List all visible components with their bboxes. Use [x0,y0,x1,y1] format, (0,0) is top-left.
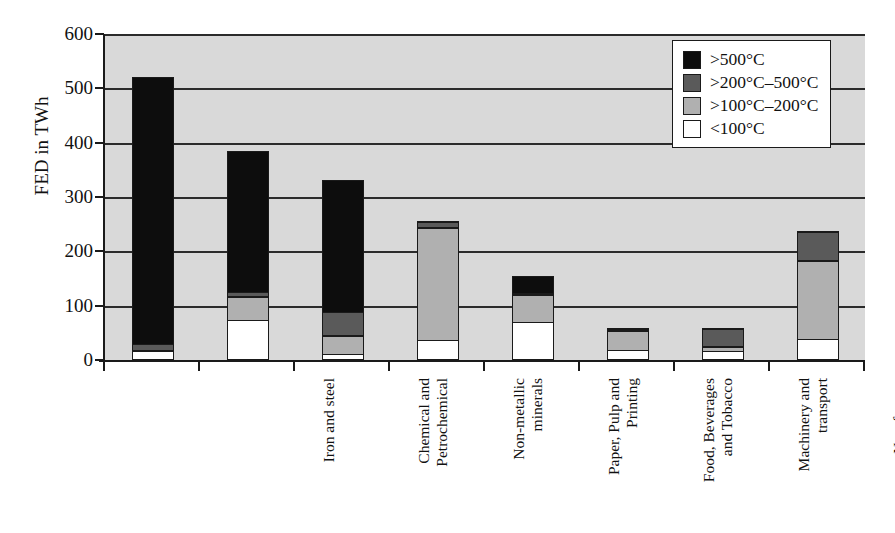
y-axis-tick-label: 200 [41,240,93,262]
bar-4 [417,221,459,360]
bar-8 [797,231,839,360]
bar-2 [227,151,269,360]
legend-item-label: >200°C–500°C [710,72,818,93]
bar-segment [133,344,173,351]
x-axis-label: Paper, Pulp and Printing [605,378,642,533]
y-axis-tick-label: 0 [41,349,93,371]
bar-segment [228,320,268,359]
bar-segment [513,322,553,359]
y-axis-tick-label: 100 [41,295,93,317]
bar-segment [323,181,363,312]
x-axis-label: Non-ferrous metals [890,378,895,533]
y-axis-tick-mark [95,196,104,198]
bar-segment [798,261,838,340]
bar-7 [702,328,744,360]
x-axis-tick-mark [863,360,865,371]
x-axis-tick-mark [768,360,770,371]
y-axis-tick-label: 600 [41,23,93,45]
bar-6 [607,328,649,360]
x-axis-tick-mark [198,360,200,371]
legend-item-label: >500°C [710,49,765,70]
bar-segment [513,295,553,323]
black-swatch-icon [683,51,701,69]
x-axis-label: Non-metallic minerals [510,378,547,533]
legend-item: >200°C–500°C [683,71,818,94]
y-axis-tick-mark [95,33,104,35]
x-axis-label: Food, Beverages and Tobacco [700,378,737,533]
white-swatch-icon [683,120,701,138]
bar-segment [513,277,553,293]
bar-segment [418,228,458,340]
bar-5 [512,276,554,360]
medium-gray-swatch-icon [683,97,701,115]
legend-item-label: >100°C–200°C [710,95,818,116]
legend-item: >100°C–200°C [683,94,818,117]
bar-segment [703,351,743,359]
bar-segment [798,339,838,359]
chart-container: FED in TWh 0100200300400500600 Iron and … [0,0,895,533]
legend-item: >500°C [683,48,818,71]
bar-segment [323,354,363,359]
x-axis-baseline [99,360,865,362]
bar-3 [322,180,364,360]
bar-segment [323,312,363,337]
bar-segment [228,297,268,321]
x-axis-tick-mark [293,360,295,371]
bar-segment [133,351,173,359]
x-axis-tick-mark [483,360,485,371]
x-axis-label: Chemical and Petrochemical [415,378,452,533]
bar-segment [703,329,743,347]
bar-segment [608,331,648,350]
legend-item: <100°C [683,117,818,140]
x-axis-tick-mark [388,360,390,371]
bar-segment [608,350,648,359]
x-axis-tick-mark [103,360,105,371]
bar-segment [133,78,173,343]
y-axis-tick-label: 300 [41,186,93,208]
y-axis-tick-mark [95,250,104,252]
x-axis-label: Machinery and transport [795,378,832,533]
y-axis-tick-mark [95,87,104,89]
x-axis-tick-mark [578,360,580,371]
legend: >500°C >200°C–500°C >100°C–200°C <100°C [672,40,831,148]
y-axis-tick-mark [95,305,104,307]
y-axis-tick-label: 400 [41,132,93,154]
x-axis-tick-mark [673,360,675,371]
y-axis-tick-mark [95,142,104,144]
legend-item-label: <100°C [710,118,765,139]
bar-segment [418,340,458,359]
dark-gray-swatch-icon [683,74,701,92]
bar-segment [228,152,268,292]
bar-segment [798,232,838,261]
x-axis-label: Iron and steel [320,378,338,533]
bar-segment [323,336,363,354]
bar-1 [132,77,174,360]
y-axis-tick-label: 500 [41,77,93,99]
